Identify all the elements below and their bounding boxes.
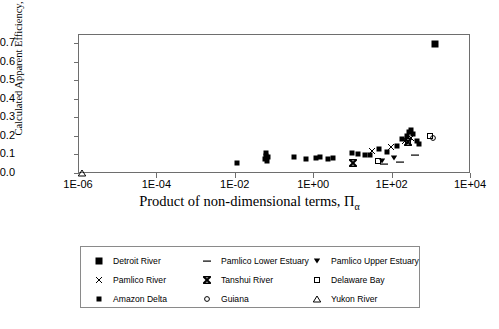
y-tick-label: 0.4 [0,92,15,104]
legend-item[interactable]: Pamlico River [91,270,166,290]
data-point [367,152,373,158]
legend-marker-icon [91,292,107,306]
data-point [374,158,381,165]
plot-panel [78,34,470,173]
legend-row: Pamlico RiverTanshui RiverDelaware Bay [81,270,419,290]
x-axis-title-text: Product of non-dimensional terms, Π [139,193,354,209]
x-axis-title-subscript: α [355,201,360,212]
legend-marker-icon [309,292,325,306]
legend-marker-icon [199,254,215,268]
data-point [348,159,357,168]
data-point [376,146,382,152]
legend-label: Pamlico Lower Estuary [221,256,309,266]
legend-label: Yukon River [331,294,377,304]
legend-item[interactable]: Pamlico Upper Estuary [309,251,419,271]
x-axis-title: Product of non-dimensional terms, Πα [0,193,499,212]
data-point [317,154,323,160]
data-point [430,40,439,49]
data-point [291,154,297,160]
x-tick-mark [392,173,393,178]
legend-label: Guiana [221,294,249,304]
legend-item[interactable]: Delaware Bay [309,270,385,290]
x-tick-label: 1E-04 [126,178,186,190]
x-tick-mark [235,173,236,178]
data-point [265,154,271,160]
data-point [416,141,422,147]
data-point [234,160,240,166]
legend-label: Pamlico Upper Estuary [331,256,419,266]
legend-marker-icon [309,254,325,268]
data-point [430,134,437,141]
y-tick-label: 0.7 [0,36,15,48]
data-point [384,149,390,155]
x-tick-mark [313,173,314,178]
legend-row: Detroit RiverPamlico Lower EstuaryPamlic… [81,251,419,271]
legend-marker-icon [199,292,215,306]
chart-legend: Detroit RiverPamlico Lower EstuaryPamlic… [80,246,420,308]
data-point [390,155,398,162]
legend-item[interactable]: Pamlico Lower Estuary [199,251,309,271]
x-tick-label: 1E+04 [440,178,499,190]
data-point [349,150,355,156]
y-tick-label: 0.3 [0,110,15,122]
x-tick-label: 1E+00 [283,178,343,190]
chart-figure: Calculated Apparent Efficiency, α' 0.00.… [0,0,499,329]
legend-label: Amazon Delta [113,294,167,304]
legend-marker-icon [199,273,215,287]
legend-label: Pamlico River [113,275,166,285]
data-point [405,139,412,146]
legend-item[interactable]: Amazon Delta [91,289,167,309]
legend-item[interactable]: Guiana [199,289,249,309]
legend-marker-icon [309,273,325,287]
data-point [410,131,416,137]
legend-label: Detroit River [113,256,161,266]
plot-data-area [79,35,469,172]
data-point [330,155,336,161]
x-tick-mark [470,173,471,178]
legend-item[interactable]: Detroit River [91,251,161,271]
y-tick-label: 0.5 [0,73,15,85]
x-tick-label: 1E+02 [362,178,422,190]
legend-item[interactable]: Tanshui River [199,270,273,290]
data-point [355,151,361,157]
legend-row: Amazon DeltaGuianaYukon River [81,289,419,309]
legend-item[interactable]: Yukon River [309,289,377,309]
legend-label: Delaware Bay [331,275,385,285]
data-point [78,169,87,177]
x-tick-label: 1E-06 [48,178,108,190]
legend-label: Tanshui River [221,275,273,285]
data-point [303,156,309,162]
x-tick-mark [156,173,157,178]
legend-marker-icon [91,254,107,268]
y-tick-label: 0.2 [0,129,15,141]
y-tick-label: 0.1 [0,147,15,159]
y-tick-label: 0.0 [0,166,15,178]
data-point [411,152,420,157]
x-tick-label: 1E-02 [205,178,265,190]
y-tick-label: 0.6 [0,55,15,67]
legend-marker-icon [91,273,107,287]
data-point [394,143,400,149]
